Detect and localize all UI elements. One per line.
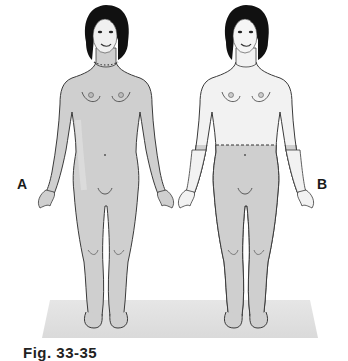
face bbox=[93, 19, 117, 53]
left-hand bbox=[178, 190, 194, 208]
face bbox=[233, 19, 257, 53]
figure-b bbox=[178, 5, 313, 328]
left-hand bbox=[38, 190, 54, 208]
floor-shadow bbox=[42, 300, 318, 338]
right-hand bbox=[157, 190, 173, 208]
panel-label-a: A bbox=[17, 176, 27, 192]
figure-a bbox=[38, 5, 173, 328]
panel-label-b: B bbox=[317, 176, 327, 192]
right-hand bbox=[297, 190, 313, 208]
figure-caption: Fig. 33-35 bbox=[23, 344, 97, 361]
